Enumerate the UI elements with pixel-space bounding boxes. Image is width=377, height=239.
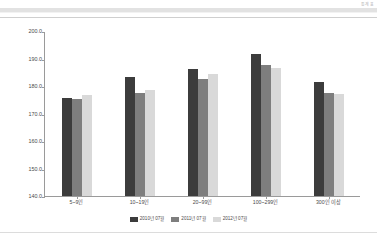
bar-2-2[interactable] xyxy=(208,74,218,196)
y-axis-tick xyxy=(42,170,45,171)
y-axis-label: 150.0 xyxy=(29,167,43,172)
bar-chart: 5~9인10~19인20~99인100~299인300인 이상 200.0190… xyxy=(0,20,377,239)
x-axis-label: 100~299인 xyxy=(253,200,278,205)
y-axis-tick xyxy=(42,197,45,198)
legend-item[interactable]: 2010년 07월 xyxy=(130,217,165,222)
x-axis-label: 300인 이상 xyxy=(316,200,341,205)
legend-swatch-icon xyxy=(130,217,138,222)
header-divider xyxy=(0,17,377,18)
bar-0-3[interactable] xyxy=(251,54,261,196)
bar-2-3[interactable] xyxy=(271,68,281,196)
y-axis-label: 180.0 xyxy=(29,84,43,89)
screenshot-root: 통계표 5~9인10~19인20~99인100~299인300인 이상 200.… xyxy=(0,0,377,239)
y-axis-tick xyxy=(42,32,45,33)
y-axis-label: 190.0 xyxy=(29,57,43,62)
bar-1-1[interactable] xyxy=(135,93,145,196)
corner-note: 통계표 xyxy=(361,1,374,7)
header-band-light xyxy=(0,12,377,13)
bar-0-1[interactable] xyxy=(125,77,135,196)
bar-0-0[interactable] xyxy=(62,98,72,196)
y-axis-label: 160.0 xyxy=(29,139,43,144)
legend-label: 2010년 07월 xyxy=(140,217,165,222)
bar-group: 5~9인 xyxy=(45,32,108,196)
legend-swatch-icon xyxy=(213,217,221,222)
x-axis-label: 20~99인 xyxy=(193,200,213,205)
bar-0-2[interactable] xyxy=(188,69,198,196)
bar-0-4[interactable] xyxy=(314,82,324,196)
x-axis-label: 5~9인 xyxy=(70,200,84,205)
y-axis-tick xyxy=(42,142,45,143)
y-axis-label: 170.0 xyxy=(29,112,43,117)
bar-1-4[interactable] xyxy=(324,93,334,196)
bar-2-0[interactable] xyxy=(82,95,92,196)
bar-1-0[interactable] xyxy=(72,99,82,196)
plot-area: 5~9인10~19인20~99인100~299인300인 이상 200.0190… xyxy=(44,32,360,197)
bar-2-1[interactable] xyxy=(145,90,155,196)
bar-groups: 5~9인10~19인20~99인100~299인300인 이상 xyxy=(45,32,360,196)
y-axis-label: 200.0 xyxy=(29,29,43,34)
x-axis-label: 10~19인 xyxy=(130,200,150,205)
bar-group: 10~19인 xyxy=(108,32,171,196)
y-axis-tick xyxy=(42,60,45,61)
y-axis-label: 140.0 xyxy=(29,194,43,199)
bar-1-3[interactable] xyxy=(261,65,271,196)
legend-item[interactable]: 2012년 07월 xyxy=(213,217,248,222)
bar-1-2[interactable] xyxy=(198,79,208,196)
bar-group: 300인 이상 xyxy=(297,32,360,196)
legend-label: 2012년 07월 xyxy=(223,217,248,222)
legend-swatch-icon xyxy=(171,217,179,222)
footer-divider xyxy=(0,232,377,233)
legend-item[interactable]: 2011년 07월 xyxy=(171,217,205,222)
chart-legend: 2010년 07월2011년 07월2012년 07월 xyxy=(0,217,377,222)
legend-label: 2011년 07월 xyxy=(181,217,205,222)
bar-2-4[interactable] xyxy=(334,94,344,196)
y-axis-tick xyxy=(42,87,45,88)
bar-group: 100~299인 xyxy=(234,32,297,196)
bar-group: 20~99인 xyxy=(171,32,234,196)
y-axis-tick xyxy=(42,115,45,116)
